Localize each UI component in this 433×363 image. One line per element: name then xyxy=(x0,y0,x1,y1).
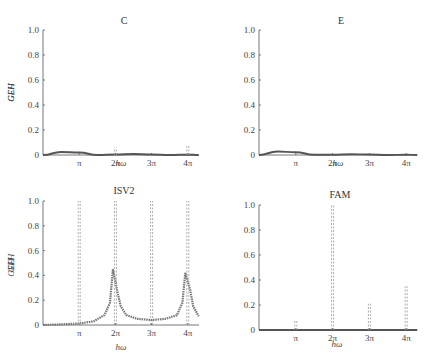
y-axis-label: GEH xyxy=(6,258,16,277)
x-tick-label: 3π xyxy=(147,328,157,338)
y-tick-label: 0.4 xyxy=(244,100,256,110)
y-tick-label: 0.4 xyxy=(28,270,40,280)
y-axis-label: GEH xyxy=(6,83,16,102)
y-tick-label: 0.8 xyxy=(244,225,256,235)
y-tick-label: 0 xyxy=(35,150,40,160)
y-tick-label: 1.0 xyxy=(28,196,40,206)
y-tick-label: 0.6 xyxy=(28,246,40,256)
chart-panel-e: E00.20.40.60.81.0π2π3π4πhωGEH xyxy=(6,15,417,168)
x-tick-label: 4π xyxy=(183,328,193,338)
y-tick-label: 0.8 xyxy=(28,50,40,60)
chart-title: E xyxy=(338,15,344,26)
y-tick-label: 0.4 xyxy=(28,100,40,110)
x-axis-label: hω xyxy=(333,158,344,168)
y-tick-label: 0.6 xyxy=(28,75,40,85)
x-axis-label: hω xyxy=(332,339,343,349)
y-tick-label: 1.0 xyxy=(244,200,256,210)
y-tick-label: 0.6 xyxy=(244,75,256,85)
y-tick-label: 1.0 xyxy=(244,25,256,35)
x-tick-label: π xyxy=(77,328,82,338)
x-tick-label: 2π xyxy=(111,328,121,338)
x-tick-label: π xyxy=(294,333,299,343)
y-tick-label: 0.2 xyxy=(28,125,39,135)
x-tick-label: 4π xyxy=(402,333,412,343)
y-tick-label: 0 xyxy=(251,150,256,160)
y-tick-label: 0.2 xyxy=(28,295,39,305)
x-tick-label: 3π xyxy=(365,333,375,343)
x-tick-label: π xyxy=(294,158,299,168)
data-curve xyxy=(259,152,417,156)
y-tick-label: 0.2 xyxy=(244,300,255,310)
y-tick-label: 0.4 xyxy=(244,275,256,285)
x-tick-label: 4π xyxy=(402,158,412,168)
y-tick-label: 0.8 xyxy=(28,221,40,231)
x-tick-label: 3π xyxy=(365,158,375,168)
x-tick-label: 3π xyxy=(147,158,157,168)
x-tick-label: 4π xyxy=(183,158,193,168)
y-tick-label: 0.6 xyxy=(244,250,256,260)
data-curve xyxy=(43,269,199,325)
x-axis-label: hω xyxy=(116,342,127,352)
chart-title: FAM xyxy=(330,189,351,200)
chart-panel-c: C00.20.40.60.81.0π2π3π4πhωGEH xyxy=(6,15,199,168)
y-tick-label: 0.8 xyxy=(244,50,256,60)
y-tick-label: 0 xyxy=(35,320,40,330)
y-tick-label: 0 xyxy=(251,325,256,335)
y-tick-label: 0.2 xyxy=(244,125,255,135)
figure-grid: C00.20.40.60.81.0π2π3π4πhωGEHE00.20.40.6… xyxy=(0,0,433,363)
chart-title: C xyxy=(121,15,128,26)
y-tick-label: 1.0 xyxy=(28,25,40,35)
chart-panel-isv2: ISV200.20.40.60.81.0π2π3π4πhωGEH xyxy=(6,185,199,352)
chart-title: ISV2 xyxy=(113,185,134,196)
x-axis-label: hω xyxy=(116,158,127,168)
x-tick-label: π xyxy=(77,158,82,168)
